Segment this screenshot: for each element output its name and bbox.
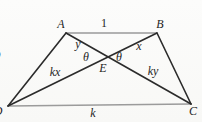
side-DC [8,104,191,106]
segment-label-BE: x [135,39,142,53]
length-label-AB: 1 [101,16,107,30]
angle-label-theta-right: θ [116,50,122,64]
length-label-DC: k [90,106,96,120]
side-BC [157,33,191,104]
vertex-label-A: A [56,17,65,31]
point-label-E: E [98,61,107,75]
geometry-diagram: A1ByxθθEkxkykDCD [0,0,202,122]
segment-label-AE: y [74,37,81,51]
diagonal-BD [8,33,157,106]
vertex-label-D-clipped: D [0,104,3,118]
clipped-edge-glyph: D [0,48,1,62]
segment-label-ED: kx [50,65,61,79]
angle-label-theta-left: θ [83,50,89,64]
segment-label-EC: ky [148,64,159,78]
trapezoid-figure: A1ByxθθEkxkykDCD [0,0,202,122]
vertex-label-C: C [189,104,198,118]
vertex-label-B: B [156,17,164,31]
